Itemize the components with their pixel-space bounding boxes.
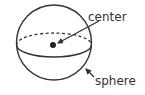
center-label: center <box>88 10 127 24</box>
center-arrow <box>58 21 99 43</box>
sphere-arrow <box>86 69 94 77</box>
sphere-diagram: center sphere <box>0 0 145 95</box>
sphere-label: sphere <box>95 74 136 88</box>
center-point <box>50 42 56 48</box>
